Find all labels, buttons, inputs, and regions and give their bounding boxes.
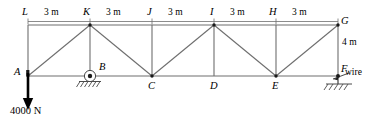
- joint-I: [212, 23, 215, 26]
- wire-label: wire: [345, 68, 362, 78]
- dimension-L-K: 3 m: [44, 8, 59, 18]
- dimension-height-4m: 4 m: [342, 38, 357, 48]
- diagonal-members: [28, 25, 338, 76]
- truss-diagram-figure: L K J I H G 3 m 3 m 3 m 3 m 3 m 4 m A B …: [0, 0, 366, 121]
- node-label-I: I: [210, 7, 214, 18]
- member-A-K: [28, 25, 90, 76]
- joint-G: [336, 23, 339, 26]
- dimension-K-J: 3 m: [106, 8, 121, 18]
- joint-K: [88, 23, 91, 26]
- support-pin-B: [77, 70, 102, 87]
- node-label-H: H: [269, 7, 277, 18]
- dimension-I-H: 3 m: [230, 8, 245, 18]
- joint-C: [150, 74, 153, 77]
- dimension-H-G: 3 m: [292, 8, 307, 18]
- node-label-C: C: [148, 81, 155, 92]
- node-label-B: B: [99, 62, 105, 73]
- node-label-A: A: [14, 67, 20, 78]
- node-label-K: K: [83, 7, 90, 18]
- load-label-4000N: 4000 N: [10, 106, 41, 117]
- member-C-I: [152, 25, 214, 76]
- top-dimension-line: [28, 19, 338, 25]
- node-label-J: J: [147, 7, 152, 18]
- truss-drawing: [0, 0, 366, 121]
- node-label-G: G: [341, 16, 349, 27]
- member-E-G: [276, 25, 338, 76]
- node-label-L: L: [22, 7, 28, 18]
- node-label-D: D: [210, 81, 218, 92]
- node-label-E: E: [272, 81, 278, 92]
- joint-E: [274, 74, 277, 77]
- dimension-J-I: 3 m: [168, 8, 183, 18]
- member-I-E: [214, 25, 276, 76]
